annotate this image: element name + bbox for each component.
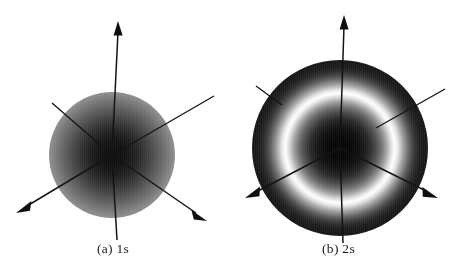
axis-y-lower-left-2s: [256, 148, 340, 192]
panel-2s: (b) 2s: [226, 0, 451, 278]
axes-2s: [226, 0, 451, 278]
axis-x-upper-left-1s: [52, 103, 112, 155]
arrowhead-y-lower-left-1s: [16, 201, 31, 213]
axis-y-lower-left-1s: [27, 155, 112, 206]
orbital-figure: (a) 1s: [0, 0, 451, 278]
arrowhead-z-up-2s: [340, 15, 349, 30]
axis-z-up-2s: [340, 26, 344, 148]
axis-z-down-2s: [340, 148, 343, 243]
axis-y-upper-right-1s: [112, 96, 214, 155]
axis-z-down-1s: [112, 155, 117, 240]
orbital-stage-1s: (a) 1s: [0, 0, 226, 278]
axis-x-lower-right-1s: [112, 155, 196, 213]
axes-1s: [0, 0, 226, 278]
arrowhead-z-up-1s: [114, 21, 123, 36]
axis-x-upper-left-2s: [256, 86, 282, 105]
caption-1s: (a) 1s: [0, 241, 226, 257]
caption-2s: (b) 2s: [226, 241, 451, 257]
axis-z-up-1s: [112, 32, 118, 155]
axis-x-lower-right-2s: [340, 148, 426, 191]
arrowhead-x-lower-right-2s: [422, 187, 438, 198]
orbital-stage-2s: (b) 2s: [226, 0, 451, 278]
panel-1s: (a) 1s: [0, 0, 226, 278]
axis-y-upper-right-2s: [376, 89, 445, 128]
arrowhead-y-lower-left-2s: [245, 186, 260, 198]
